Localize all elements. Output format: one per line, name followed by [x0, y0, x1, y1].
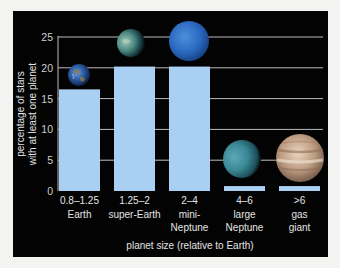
- mini-neptune-image: [169, 21, 209, 61]
- super-earth-image: [117, 29, 145, 57]
- bar: [169, 67, 210, 191]
- y-axis-title-line: with at least one planet: [27, 63, 38, 167]
- x-tick-range: 1.25–2: [119, 195, 150, 206]
- gas-giant-image: [276, 134, 324, 182]
- x-tick-name: mini-: [179, 209, 201, 220]
- x-tick-range: 0.8–1.25: [60, 195, 99, 206]
- x-tick-range: >6: [294, 195, 306, 206]
- bar: [59, 89, 100, 191]
- x-tick-range: 2–4: [181, 195, 198, 206]
- bar: [279, 186, 320, 191]
- x-axis-labels: 0.8–1.25Earth1.25–2super-Earth2–4mini-Ne…: [60, 195, 311, 233]
- bar: [224, 186, 265, 191]
- x-tick-name: Neptune: [171, 222, 209, 233]
- y-tick-label: 0: [47, 185, 53, 197]
- y-tick-label: 10: [41, 123, 53, 135]
- x-tick-name: super-Earth: [108, 209, 160, 220]
- y-tick-label: 5: [47, 154, 53, 166]
- y-tick-label: 20: [41, 62, 53, 74]
- y-tick-label: 25: [41, 31, 53, 43]
- x-tick-name: gas: [291, 209, 307, 220]
- x-tick-name: Earth: [68, 209, 92, 220]
- earth-image: [68, 64, 90, 86]
- x-tick-name: large: [233, 209, 256, 220]
- y-tick-label: 15: [41, 93, 53, 105]
- bar-chart: 0510152025 0.8–1.25Earth1.25–2super-Eart…: [0, 0, 340, 268]
- x-tick-range: 4–6: [236, 195, 253, 206]
- y-axis-ticks: 0510152025: [41, 31, 53, 197]
- y-axis-title-line: percentage of stars: [15, 71, 26, 157]
- bar: [114, 67, 155, 191]
- y-axis-title: percentage of starswith at least one pla…: [15, 63, 38, 167]
- x-tick-name: giant: [289, 222, 311, 233]
- x-tick-name: Neptune: [226, 222, 264, 233]
- x-axis-title: planet size (relative to Earth): [126, 240, 253, 251]
- large-neptune-image: [223, 140, 261, 178]
